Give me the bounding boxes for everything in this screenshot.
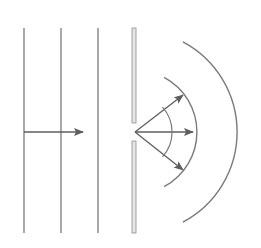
barrier-lower	[132, 141, 136, 233]
diffraction-diagram	[0, 0, 261, 248]
arrow-icon	[135, 95, 183, 132]
incident-wavefronts	[24, 28, 98, 233]
slit-barrier	[132, 28, 136, 233]
diffracted-direction-arrows	[135, 95, 193, 170]
barrier-upper	[132, 28, 136, 123]
arrow-icon	[135, 132, 183, 170]
